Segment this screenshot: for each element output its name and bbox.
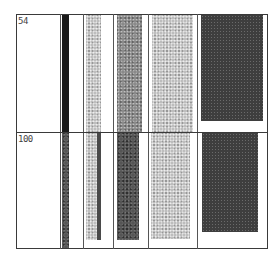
bar-row2-col5 bbox=[202, 133, 258, 232]
bar-row2-col2-edge bbox=[97, 133, 101, 240]
row-label-bottom: 100 bbox=[18, 135, 33, 144]
bar-row2-col2 bbox=[86, 133, 97, 240]
bar-row2-col4 bbox=[151, 133, 190, 239]
bar-row2-col1 bbox=[62, 133, 69, 248]
bar-row1-col5 bbox=[201, 15, 263, 121]
bar-row1-col4 bbox=[152, 15, 193, 132]
bar-row1-col1 bbox=[62, 15, 69, 132]
bar-row2-col3 bbox=[117, 133, 139, 240]
row-label-top: 54 bbox=[18, 17, 28, 26]
bar-row1-col2 bbox=[86, 15, 101, 132]
bar-row1-col3 bbox=[117, 15, 142, 132]
